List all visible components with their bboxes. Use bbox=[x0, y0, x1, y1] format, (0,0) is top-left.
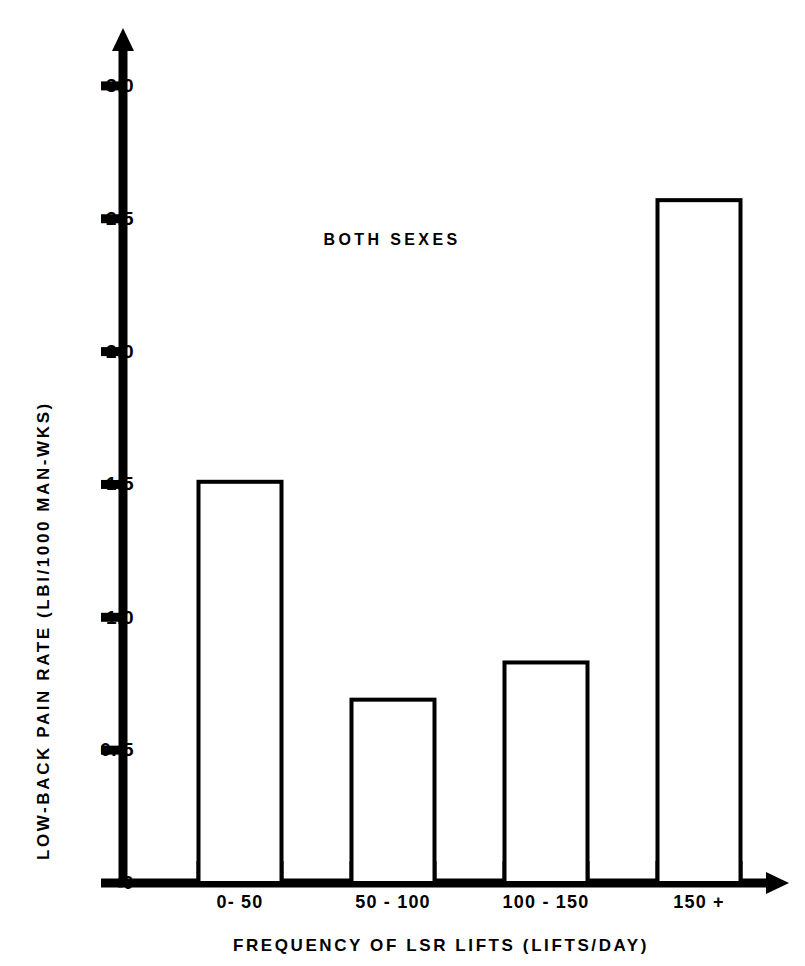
y-tick-label-2_5: 2.5 bbox=[106, 208, 134, 230]
bar-chart-figure: 0 0. 5 1.0 1.5 2.0 2.5 3.0 LOW-BACK PAIN… bbox=[0, 0, 805, 966]
bar bbox=[505, 662, 588, 883]
x-tick-label-2: 100 - 150 bbox=[503, 892, 590, 913]
bar bbox=[199, 482, 282, 883]
x-axis-arrow-icon bbox=[766, 872, 789, 894]
bars-group bbox=[199, 200, 741, 883]
y-tick-label-0: 0 bbox=[123, 872, 134, 894]
y-axis-title: LOW-BACK PAIN RATE (LBI/1000 MAN-WKS) bbox=[34, 401, 54, 860]
y-tick-label-1_0: 1.0 bbox=[106, 607, 134, 629]
y-tick-label-1_5: 1.5 bbox=[106, 473, 134, 495]
chart-annotation-both-sexes: BOTH SEXES bbox=[323, 231, 460, 249]
x-tick-label-1: 50 - 100 bbox=[355, 892, 431, 913]
y-tick-label-3_0: 3.0 bbox=[106, 75, 134, 97]
y-tick-label-0_5: 0. 5 bbox=[100, 739, 134, 761]
x-axis-title: FREQUENCY OF LSR LIFTS (LIFTS/DAY) bbox=[233, 936, 649, 956]
bar bbox=[352, 700, 435, 883]
bar bbox=[658, 200, 741, 883]
y-axis-arrow-icon bbox=[112, 28, 134, 51]
x-tick-label-0: 0- 50 bbox=[216, 892, 263, 913]
y-tick-label-2_0: 2.0 bbox=[106, 341, 134, 363]
x-tick-label-3: 150 + bbox=[673, 892, 725, 913]
